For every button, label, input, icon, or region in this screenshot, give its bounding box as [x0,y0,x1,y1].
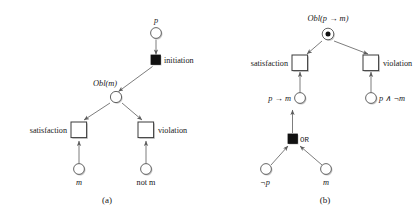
place-obl-m[interactable] [110,91,122,103]
place-p-implies-m-circle [295,93,306,104]
transition-initiation[interactable] [151,55,162,66]
transition-or[interactable] [288,134,299,145]
panel-a: p initiation Obl(m) satisfaction [30,16,194,205]
transition-violation-a-label: violation [158,126,187,135]
place-p-label: p [153,16,158,25]
transition-satisfaction-a[interactable] [71,122,88,139]
place-m-b-circle [321,164,332,175]
transition-violation-b-label: violation [383,59,412,68]
transition-satisfaction-b-square [292,55,308,71]
place-not-p[interactable] [261,164,273,176]
arc-not-p-to-or [271,146,288,165]
place-p-implies-m[interactable] [295,93,307,105]
transition-violation-b[interactable] [363,55,380,72]
arc-obl-m-to-satisfaction [84,103,110,120]
place-p-and-not-m-circle [366,93,377,104]
place-m-b-label: m [323,178,329,187]
place-not-m-a-label: not m [137,178,157,187]
place-m-a-circle [74,164,85,175]
figure-container: p initiation Obl(m) satisfaction [0,0,420,218]
panel-a-caption: (a) [102,195,112,205]
place-p-circle [151,28,162,39]
place-obl-p-implies-m[interactable] [322,28,335,41]
place-p-and-not-m[interactable] [366,93,378,105]
transition-violation-a-square [138,122,154,138]
arc-m-to-or-b [300,146,322,165]
transition-satisfaction-b-label: satisfaction [251,59,288,68]
place-m-b[interactable] [321,164,333,176]
place-obl-p-implies-m-token [326,32,331,37]
transition-or-square [288,134,297,143]
arc-obl-to-violation-b [334,41,368,54]
panel-b: Obl(p → m) satisfaction violation p → m [251,14,412,205]
place-not-m-a[interactable] [141,164,153,176]
transition-initiation-label: initiation [164,56,194,65]
place-m-a[interactable] [74,164,86,176]
arc-initiation-to-obl-m [119,67,153,92]
place-p-and-not-m-label: p ∧ ¬m [378,94,405,103]
transition-or-label: OR [300,136,309,144]
transition-violation-b-square [363,55,379,71]
panel-b-caption: (b) [320,195,331,205]
place-obl-m-circle [110,91,121,102]
place-not-p-label: ¬p [260,178,270,187]
place-p-implies-m-label: p → m [267,94,291,103]
place-not-p-circle [261,164,272,175]
transition-satisfaction-a-label: satisfaction [30,126,67,135]
transition-satisfaction-a-square [71,122,87,138]
place-p[interactable] [151,28,163,40]
place-m-a-label: m [76,178,82,187]
transition-satisfaction-b[interactable] [292,55,309,72]
arc-obl-to-satisfaction-b [307,41,322,54]
transition-initiation-square [151,55,160,64]
place-obl-m-label: Obl(m) [93,79,117,88]
arc-obl-m-to-violation [122,103,142,120]
place-not-m-a-circle [141,164,152,175]
transition-violation-a[interactable] [138,122,155,139]
place-obl-p-implies-m-label: Obl(p → m) [308,14,349,23]
petri-net-figure: p initiation Obl(m) satisfaction [0,0,420,218]
